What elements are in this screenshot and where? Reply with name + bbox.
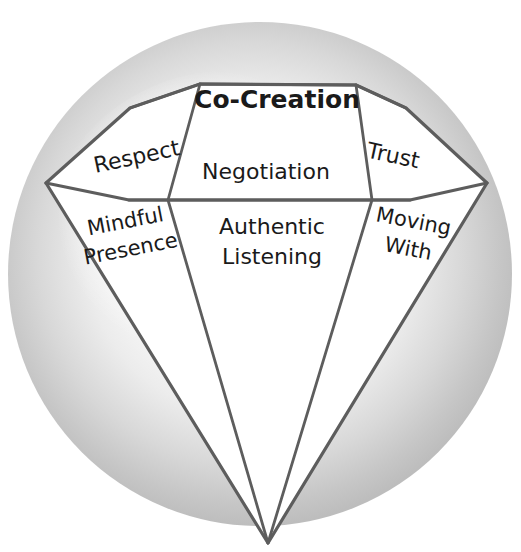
co-creation-diamond-diagram: Co-Creation Respect Negotiation Trust Mi… [0,0,521,552]
label-co-creation: Co-Creation [194,85,360,114]
label-negotiation: Negotiation [202,159,330,184]
diagram-canvas: Co-Creation Respect Negotiation Trust Mi… [0,0,521,552]
label-authentic-listening-line2: Listening [222,244,322,269]
label-authentic-listening-line1: Authentic [219,214,325,239]
